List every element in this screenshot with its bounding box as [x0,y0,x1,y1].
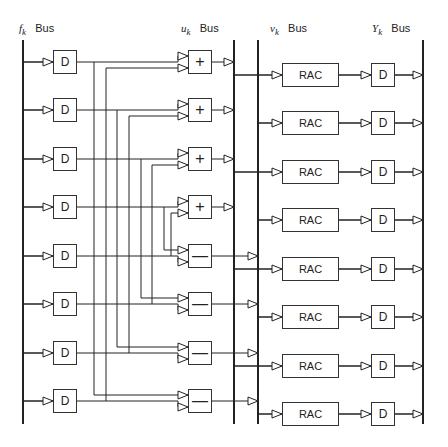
v-bus-label: vk Bus [270,22,307,34]
arrow-icon [178,149,188,157]
output-delay-block: D [371,305,395,329]
arrow-icon [224,155,234,163]
arrow-icon [178,258,188,266]
rac-block: RAC [282,111,339,135]
arrow-icon [178,112,188,120]
arrow-icon [178,100,188,108]
input-delay-block: D [53,389,77,413]
arrow-icon [272,265,282,273]
input-delay-block: D [53,195,77,219]
arrow-icon [361,265,371,273]
subtractor-block: — [188,389,212,413]
f-bus-label: fk Bus [19,22,54,34]
arrow-icon [248,349,258,357]
arrow-icon [272,313,282,321]
dct-architecture-diagram: fk Bus uk Bus vk Bus Yk Bus D D D D D D … [0,0,448,447]
rac-block: RAC [282,354,339,378]
input-delay-block: D [53,98,77,122]
output-delay-block: D [371,354,395,378]
arrow-icon [43,300,53,308]
subtractor-block: — [188,244,212,268]
output-delay-block: D [371,111,395,135]
arrow-icon [178,64,188,72]
output-delay-block: D [371,402,395,426]
arrow-icon [178,343,188,351]
rac-block: RAC [282,305,339,329]
subtractor-block: — [188,341,212,365]
rac-block: RAC [282,257,339,281]
adder-block: + [188,98,212,122]
rac-block: RAC [282,160,339,184]
input-delay-block: D [53,147,77,171]
arrow-icon [178,403,188,411]
arrow-icon [272,71,282,79]
output-delay-block: D [371,208,395,232]
adder-block: + [188,147,212,171]
arrow-icon [224,58,234,66]
arrow-icon [248,252,258,260]
arrow-icon [413,313,423,321]
output-delay-block: D [371,63,395,87]
arrow-icon [413,410,423,418]
subtractor-block: — [188,292,212,316]
arrow-icon [361,71,371,79]
arrow-icon [43,397,53,405]
u-bus-label: uk Bus [181,22,219,34]
arrow-icon [43,58,53,66]
arrow-icon [178,161,188,169]
arrow-icon [178,246,188,254]
adder-block: + [188,50,212,74]
arrow-icon [361,168,371,176]
output-delay-block: D [371,257,395,281]
rac-block: RAC [282,208,339,232]
arrow-icon [43,349,53,357]
arrow-icon [248,397,258,405]
arrow-icon [248,300,258,308]
arrow-icon [413,216,423,224]
arrow-icon [224,106,234,114]
arrow-icon [413,71,423,79]
arrow-icon [224,203,234,211]
input-delay-block: D [53,341,77,365]
adder-block: + [188,195,212,219]
arrow-icon [178,306,188,314]
input-delay-block: D [53,292,77,316]
arrow-icon [178,197,188,205]
arrow-icon [272,410,282,418]
arrow-icon [43,106,53,114]
input-delay-block: D [53,244,77,268]
arrow-icon [361,362,371,370]
arrow-icon [43,252,53,260]
arrow-icon [272,216,282,224]
arrow-icon [178,294,188,302]
arrow-icon [272,119,282,127]
arrow-icon [43,203,53,211]
output-delay-block: D [371,160,395,184]
arrow-icon [361,216,371,224]
arrow-icon [361,119,371,127]
arrow-icon [361,410,371,418]
arrow-icon [43,155,53,163]
arrow-icon [413,119,423,127]
arrow-icon [413,362,423,370]
rac-block: RAC [282,402,339,426]
arrow-icon [178,391,188,399]
rac-block: RAC [282,63,339,87]
arrow-icon [361,313,371,321]
arrow-icon [178,355,188,363]
arrow-icon [413,265,423,273]
Y-bus-label: Yk Bus [372,22,410,34]
arrow-icon [178,209,188,217]
arrow-icon [272,362,282,370]
arrow-icon [272,168,282,176]
arrow-icon [178,52,188,60]
arrow-icon [413,168,423,176]
input-delay-block: D [53,50,77,74]
